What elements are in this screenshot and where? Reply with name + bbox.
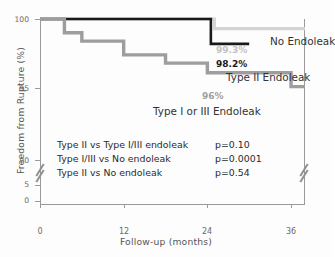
p-comparison-label: Type II vs No endoleak <box>57 166 215 180</box>
p-comparison-label: Type I/III vs No endoleak <box>57 152 215 166</box>
series-label-type-i-iii: Type I or III Endoleak <box>153 105 261 117</box>
y-tick-label-5: 5 <box>3 180 29 189</box>
value-label-type-i-iii: 96% <box>202 91 224 101</box>
y-tick-label-100: 100 <box>3 15 29 24</box>
p-value-annotations: Type II vs Type I/III endoleak p=0.10 Ty… <box>57 138 262 180</box>
p-value-row: Type II vs Type I/III endoleak p=0.10 <box>57 138 262 152</box>
series-label-type-ii: Type II Endoleak <box>226 71 310 83</box>
value-label-no-endoleak: 99.3% <box>216 45 247 55</box>
y-tick-label-0: 0 <box>3 196 29 205</box>
value-label-type-ii: 98.2% <box>216 59 247 69</box>
p-value: p=0.10 <box>215 138 250 152</box>
y-tick-label-90: 90 <box>3 156 29 165</box>
curve-no-endoleak <box>40 19 305 29</box>
x-tick-label-12: 12 <box>109 227 139 236</box>
p-value-row: Type I/III vs No endoleak p=0.0001 <box>57 152 262 166</box>
p-value-row: Type II vs No endoleak p=0.54 <box>57 166 262 180</box>
x-tick-label-24: 24 <box>192 227 222 236</box>
p-value: p=0.0001 <box>215 152 262 166</box>
y-axis-title: Freedom from Rupture (%) <box>15 31 26 191</box>
x-tick-label-36: 36 <box>276 227 306 236</box>
y-tick-label-95: 95 <box>3 84 29 93</box>
p-value: p=0.54 <box>215 166 250 180</box>
p-comparison-label: Type II vs Type I/III endoleak <box>57 138 215 152</box>
series-label-no-endoleak: No Endoleak <box>270 35 335 47</box>
x-axis-title: Follow-up (months) <box>0 236 332 247</box>
x-tick-label-0: 0 <box>25 227 55 236</box>
